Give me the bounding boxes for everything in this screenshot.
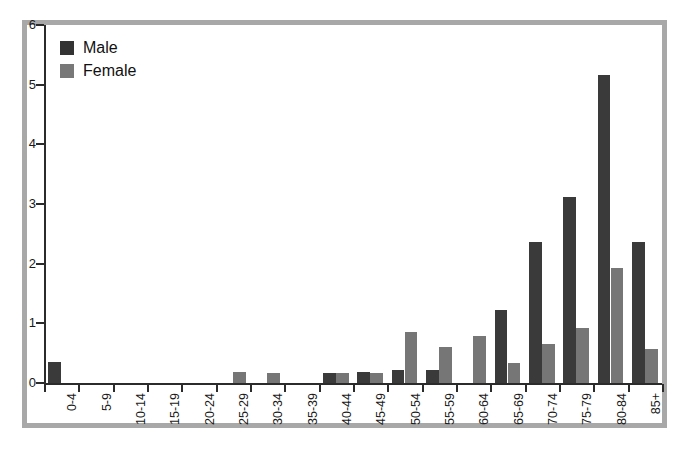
y-tick-6 [36, 24, 44, 26]
y-tick-3 [36, 203, 44, 205]
x-tick-75-79 [559, 384, 561, 392]
bar-male-55-59 [426, 370, 439, 383]
x-tick-label-80-84: 80-84 [616, 393, 629, 425]
y-tick-label-1: 1 [22, 316, 36, 329]
y-tick-4 [36, 143, 44, 145]
x-tick-label-60-64: 60-64 [478, 393, 491, 425]
bar-chart-figure: 0123456 0-45-910-1415-1920-2425-2930-343… [0, 0, 673, 449]
x-tick-25-29 [216, 384, 218, 392]
x-tick-label-25-29: 25-29 [238, 393, 251, 425]
x-tick-70-74 [525, 384, 527, 392]
y-tick-label-2: 2 [22, 257, 36, 270]
x-tick-label-10-14: 10-14 [135, 393, 148, 425]
bar-female-50-54 [405, 332, 418, 383]
x-tick-label-30-34: 30-34 [272, 393, 285, 425]
x-tick-55-59 [422, 384, 424, 392]
bar-female-55-59 [439, 347, 452, 383]
y-tick-0 [36, 382, 44, 384]
bar-female-65-69 [508, 363, 521, 383]
x-tick-label-5-9: 5-9 [101, 393, 114, 411]
bar-female-40-44 [336, 373, 349, 383]
male-swatch-icon [60, 41, 74, 55]
y-tick-label-3: 3 [22, 197, 36, 210]
x-tick-60-64 [456, 384, 458, 392]
x-tick-label-50-54: 50-54 [410, 393, 423, 425]
bar-male-75-79 [563, 197, 576, 383]
y-tick-label-0: 0 [22, 376, 36, 389]
bar-female-30-34 [267, 373, 280, 383]
x-tick-label-45-49: 45-49 [375, 393, 388, 425]
legend-item-female: Female [60, 59, 136, 82]
y-tick-label-5: 5 [22, 78, 36, 91]
y-tick-label-6: 6 [22, 18, 36, 31]
bar-female-45-49 [370, 373, 383, 383]
y-tick-2 [36, 263, 44, 265]
x-tick-65-69 [490, 384, 492, 392]
bar-series-container [44, 25, 662, 383]
bar-female-70-74 [542, 344, 555, 383]
x-tick-5-9 [78, 384, 80, 392]
female-swatch-icon [60, 64, 74, 78]
legend-item-male: Male [60, 36, 136, 59]
x-tick-80-84 [593, 384, 595, 392]
y-tick-label-4: 4 [22, 137, 36, 150]
bar-female-25-29 [233, 372, 246, 383]
bar-female-75-79 [576, 328, 589, 383]
x-tick-0-4 [44, 384, 46, 392]
x-tick-45-49 [353, 384, 355, 392]
bar-female-80-84 [611, 268, 624, 383]
x-tick-30-34 [250, 384, 252, 392]
bar-female-85+ [645, 349, 658, 383]
x-tick-label-75-79: 75-79 [581, 393, 594, 425]
x-tick-15-19 [147, 384, 149, 392]
x-tick-50-54 [387, 384, 389, 392]
bar-male-65-69 [495, 310, 508, 383]
x-tick-label-70-74: 70-74 [547, 393, 560, 425]
x-tick-label-55-59: 55-59 [444, 393, 457, 425]
x-tick-10-14 [113, 384, 115, 392]
bar-male-70-74 [529, 242, 542, 383]
x-tick-label-65-69: 65-69 [513, 393, 526, 425]
legend-label-male: Male [83, 40, 118, 56]
bar-male-50-54 [392, 370, 405, 383]
x-tick-label-20-24: 20-24 [204, 393, 217, 425]
x-tick-end [662, 384, 664, 392]
x-tick-20-24 [181, 384, 183, 392]
bar-female-60-64 [473, 336, 486, 383]
x-tick-label-85+: 85+ [650, 393, 663, 414]
bar-male-40-44 [323, 373, 336, 383]
x-tick-label-15-19: 15-19 [169, 393, 182, 425]
x-tick-label-0-4: 0-4 [66, 393, 79, 411]
legend-label-female: Female [83, 63, 136, 79]
y-tick-5 [36, 84, 44, 86]
x-tick-label-35-39: 35-39 [307, 393, 320, 425]
x-tick-85+ [628, 384, 630, 392]
bar-male-45-49 [357, 372, 370, 383]
x-tick-label-40-44: 40-44 [341, 393, 354, 425]
bar-male-80-84 [598, 75, 611, 383]
y-tick-1 [36, 322, 44, 324]
x-tick-40-44 [319, 384, 321, 392]
bar-male-85+ [632, 242, 645, 383]
bar-male-0-4 [48, 362, 61, 383]
chart-legend: Male Female [60, 36, 136, 82]
x-tick-35-39 [284, 384, 286, 392]
